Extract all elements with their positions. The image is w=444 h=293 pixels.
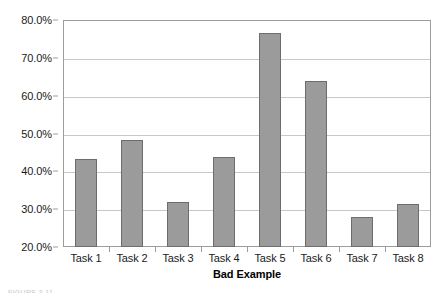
y-axis-tick-label: 30.0% [21,203,52,215]
x-axis-tick-label: Task 4 [208,252,239,264]
y-axis-tick-mark [53,20,58,21]
y-axis-tick-label: 40.0% [21,165,52,177]
x-axis-title: Bad Example [63,268,431,280]
bar[interactable] [305,81,327,247]
bar[interactable] [213,157,235,247]
bars-container [63,20,431,247]
x-axis-tick-label: Task 5 [254,252,285,264]
bar-slot [385,20,431,247]
y-axis-tick-label: 70.0% [21,52,52,64]
bar-chart-figure: 20.0%30.0%40.0%50.0%60.0%70.0%80.0% Task… [0,0,444,293]
bar-slot [109,20,155,247]
bar-slot [63,20,109,247]
y-axis-tick-mark [53,171,58,172]
y-axis-tick-mark [53,247,58,248]
x-axis-tick-label: Task 7 [346,252,377,264]
x-axis-tick-label: Task 8 [392,252,423,264]
bar-slot [293,20,339,247]
x-axis-tick-label: Task 3 [162,252,193,264]
bar-slot [201,20,247,247]
bar[interactable] [397,204,419,247]
y-axis-tick-mark [53,57,58,58]
y-axis: 20.0%30.0%40.0%50.0%60.0%70.0%80.0% [0,0,63,293]
y-axis-tick-mark [53,95,58,96]
x-axis-tick-label: Task 6 [300,252,331,264]
figure-caption: FIGURE 3-11 [8,288,53,293]
bar-slot [155,20,201,247]
bar[interactable] [167,202,189,247]
bar[interactable] [259,33,281,247]
y-axis-tick-label: 20.0% [21,241,52,253]
x-axis-tick-label: Task 1 [70,252,101,264]
bar[interactable] [121,140,143,247]
bar[interactable] [75,159,97,247]
bar-slot [339,20,385,247]
bar[interactable] [351,217,373,247]
y-axis-tick-label: 60.0% [21,90,52,102]
y-axis-tick-mark [53,209,58,210]
y-axis-tick-mark [53,133,58,134]
y-axis-tick-label: 80.0% [21,14,52,26]
y-axis-tick-label: 50.0% [21,128,52,140]
bar-slot [247,20,293,247]
x-axis-tick-label: Task 2 [116,252,147,264]
